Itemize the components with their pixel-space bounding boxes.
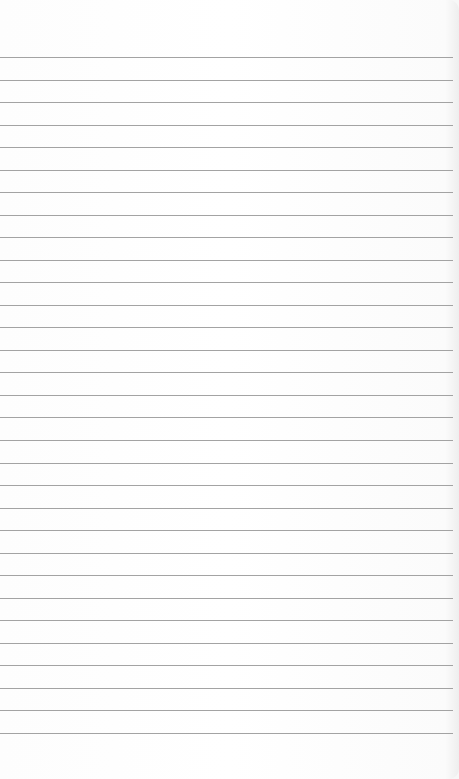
ruled-line [0, 192, 453, 193]
ruled-line [0, 237, 453, 238]
ruled-line [0, 282, 453, 283]
ruled-line [0, 417, 453, 418]
ruled-line [0, 440, 453, 441]
ruled-line [0, 260, 453, 261]
ruled-line [0, 80, 453, 81]
ruled-line [0, 710, 453, 711]
ruled-line [0, 170, 453, 171]
ruled-line [0, 57, 453, 58]
ruled-line [0, 575, 453, 576]
ruled-line [0, 395, 453, 396]
ruled-line [0, 688, 453, 689]
ruled-line [0, 643, 453, 644]
ruled-line [0, 733, 453, 734]
ruled-line [0, 147, 453, 148]
ruled-line [0, 215, 453, 216]
ruled-line [0, 372, 453, 373]
ruled-line [0, 125, 453, 126]
ruled-line [0, 665, 453, 666]
ruled-line [0, 102, 453, 103]
ruled-line [0, 598, 453, 599]
ruled-line [0, 327, 453, 328]
ruled-line [0, 620, 453, 621]
ruled-line [0, 350, 453, 351]
ruled-line [0, 305, 453, 306]
ruled-line [0, 485, 453, 486]
ruled-line [0, 508, 453, 509]
ruled-line [0, 463, 453, 464]
lined-paper-sheet [0, 0, 459, 779]
ruled-line [0, 553, 453, 554]
ruled-line [0, 530, 453, 531]
